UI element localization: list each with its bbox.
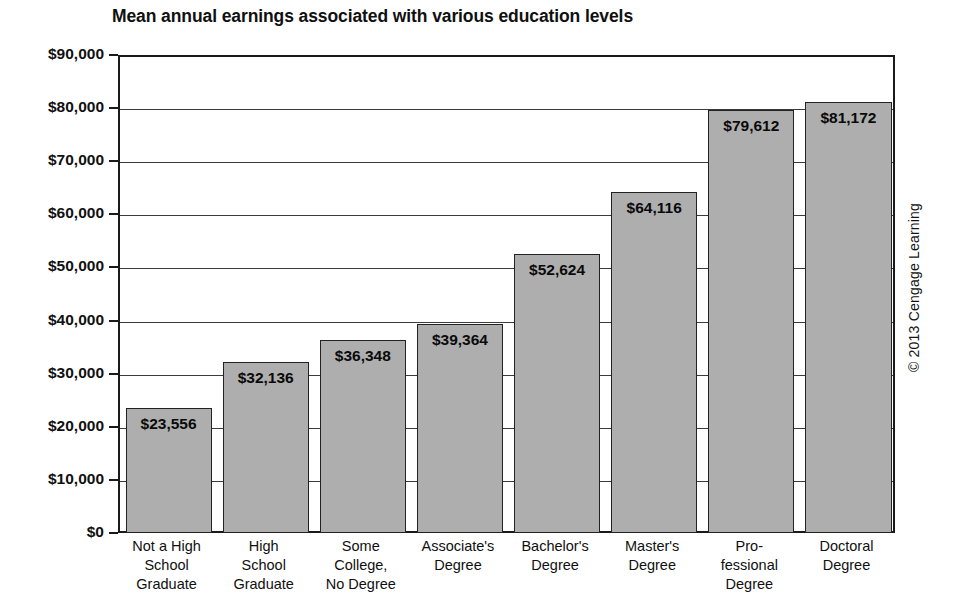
y-axis-tick-label: $80,000	[48, 98, 104, 116]
y-axis-tick-mark	[109, 107, 118, 109]
x-axis-label-line: Master's	[604, 537, 701, 556]
bar-value-label: $39,364	[418, 331, 502, 349]
x-axis-label-line: Degree	[409, 556, 506, 575]
x-axis-label-line: School	[118, 556, 215, 575]
x-axis-category-label: Master'sDegree	[604, 537, 701, 575]
y-axis-tick-mark	[109, 266, 118, 268]
x-axis-label-line: School	[215, 556, 312, 575]
x-axis-category-label: Associate'sDegree	[409, 537, 506, 575]
x-axis-label-line: Not a High	[118, 537, 215, 556]
x-axis-category-label: Pro-fessionalDegree	[701, 537, 798, 594]
bar: $79,612	[708, 110, 794, 533]
x-axis-label-line: Degree	[701, 575, 798, 594]
y-axis-tick-mark	[109, 213, 118, 215]
bar-value-label: $52,624	[515, 261, 599, 279]
bars-layer: $23,556$32,136$36,348$39,364$52,624$64,1…	[118, 55, 895, 533]
x-axis-label-line: Degree	[798, 556, 895, 575]
x-axis-label-line: Graduate	[215, 575, 312, 594]
bar: $23,556	[126, 408, 212, 533]
y-axis-tick-mark	[109, 426, 118, 428]
x-axis-label-line: No Degree	[312, 575, 409, 594]
x-axis-label-line: Bachelor's	[507, 537, 604, 556]
x-axis-label-line: Degree	[507, 556, 604, 575]
bar-value-label: $64,116	[612, 199, 696, 217]
x-axis-label-line: Some	[312, 537, 409, 556]
y-axis-tick-mark	[109, 160, 118, 162]
y-axis-tick-label: $40,000	[48, 311, 104, 329]
y-axis-tick-mark	[109, 373, 118, 375]
bar: $32,136	[223, 362, 309, 533]
bar-value-label: $32,136	[224, 369, 308, 387]
x-axis-label-line: Associate's	[409, 537, 506, 556]
bar-value-label: $81,172	[806, 109, 890, 127]
y-axis-tick-mark	[109, 54, 118, 56]
y-axis-tick-label: $30,000	[48, 364, 104, 382]
chart-title: Mean annual earnings associated with var…	[112, 6, 812, 27]
x-axis-category-label: DoctoralDegree	[798, 537, 895, 575]
y-axis-tick-label: $70,000	[48, 151, 104, 169]
y-axis-tick-label: $0	[87, 523, 104, 541]
x-axis-label-line: Doctoral	[798, 537, 895, 556]
x-axis-labels: Not a HighSchoolGraduateHighSchoolGradua…	[118, 537, 895, 604]
y-axis-tick-mark	[109, 479, 118, 481]
x-axis-label-line: Pro-	[701, 537, 798, 556]
x-axis-label-line: High	[215, 537, 312, 556]
bar: $81,172	[805, 102, 891, 533]
copyright-credit: © 2013 Cengage Learning	[906, 152, 922, 372]
bar-value-label: $36,348	[321, 347, 405, 365]
bar: $36,348	[320, 340, 406, 533]
x-axis-category-label: Bachelor'sDegree	[507, 537, 604, 575]
y-axis-tick-label: $90,000	[48, 45, 104, 63]
bar-chart: Mean annual earnings associated with var…	[0, 0, 954, 604]
bar: $52,624	[514, 254, 600, 533]
bar: $39,364	[417, 324, 503, 533]
x-axis-label-line: College,	[312, 556, 409, 575]
y-axis-tick-mark	[109, 320, 118, 322]
x-axis-category-label: SomeCollege,No Degree	[312, 537, 409, 594]
y-axis-tick-label: $50,000	[48, 257, 104, 275]
x-axis-label-line: fessional	[701, 556, 798, 575]
x-axis-label-line: Degree	[604, 556, 701, 575]
y-axis-tick-label: $60,000	[48, 204, 104, 222]
bar-value-label: $23,556	[127, 415, 211, 433]
y-axis-tick-label: $10,000	[48, 470, 104, 488]
x-axis-label-line: Graduate	[118, 575, 215, 594]
x-axis-category-label: HighSchoolGraduate	[215, 537, 312, 594]
y-axis-tick-mark	[109, 532, 118, 534]
bar: $64,116	[611, 192, 697, 533]
bar-value-label: $79,612	[709, 117, 793, 135]
y-axis-tick-label: $20,000	[48, 417, 104, 435]
x-axis-category-label: Not a HighSchoolGraduate	[118, 537, 215, 594]
